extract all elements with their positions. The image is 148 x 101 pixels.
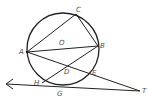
label-a: A	[18, 48, 24, 56]
segment-bh	[42, 46, 98, 83]
label-g: G	[57, 90, 63, 98]
tangent-ray-tg	[6, 84, 140, 91]
segment-ac	[27, 14, 76, 52]
point-a-dot	[26, 51, 29, 54]
label-d: D	[64, 68, 70, 76]
label-b: B	[100, 42, 105, 50]
secant-at	[27, 52, 140, 91]
label-o: O	[59, 39, 65, 47]
label-e: E	[92, 69, 97, 77]
label-h: H	[34, 79, 40, 87]
segment-cb	[76, 14, 98, 46]
label-c: C	[76, 6, 81, 14]
geometry-diagram: A B C O D E H G T	[0, 0, 148, 101]
label-t: T	[142, 87, 147, 95]
